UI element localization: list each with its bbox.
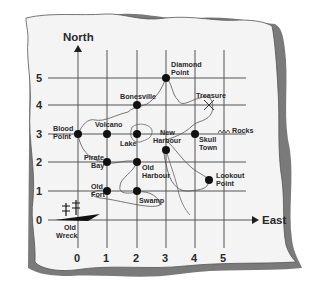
svg-text:Bonesville: Bonesville	[120, 92, 156, 101]
svg-text:Bay: Bay	[91, 161, 104, 170]
north-label: North	[63, 31, 94, 43]
svg-text:Wreck: Wreck	[56, 231, 77, 240]
svg-text:3: 3	[162, 252, 168, 264]
svg-text:Lake: Lake	[120, 139, 136, 148]
svg-text:2: 2	[133, 252, 139, 264]
svg-text:5: 5	[36, 72, 42, 84]
svg-text:0: 0	[36, 214, 42, 226]
svg-text:3: 3	[36, 128, 42, 140]
svg-text:Harbour: Harbour	[142, 171, 170, 180]
svg-text:Point: Point	[216, 179, 235, 188]
svg-text:4: 4	[191, 252, 198, 264]
svg-text:Rocks: Rocks	[232, 126, 254, 135]
svg-text:Harbour: Harbour	[153, 136, 181, 145]
svg-text:5: 5	[220, 252, 226, 264]
svg-text:Point: Point	[171, 68, 190, 77]
svg-text:Point: Point	[53, 132, 72, 141]
svg-text:1: 1	[36, 185, 42, 197]
svg-text:Swamp: Swamp	[139, 196, 165, 205]
svg-text:Treasure: Treasure	[196, 91, 226, 100]
svg-text:4: 4	[36, 99, 43, 111]
svg-text:Fort: Fort	[91, 190, 106, 199]
svg-text:Volcano: Volcano	[95, 120, 123, 129]
svg-text:1: 1	[103, 252, 109, 264]
svg-text:0: 0	[74, 252, 80, 264]
svg-text:2: 2	[36, 156, 42, 168]
svg-text:Town: Town	[199, 143, 217, 152]
treasure-map: North East 0 1 2 3 4 5 0 1 2 3 4 5	[0, 0, 315, 289]
east-label: East	[262, 214, 286, 226]
